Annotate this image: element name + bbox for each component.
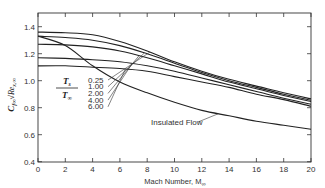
y-tick-label: 0.4 — [24, 158, 36, 167]
y-axis-title: Cf∞√Rex,∞ — [6, 78, 17, 112]
ts-ratio-fraction: Ts T∞ — [56, 76, 78, 101]
x-tick-label: 10 — [170, 165, 179, 174]
ts-ratio-legend: 0.251.002.004.006.00 — [88, 76, 104, 112]
x-tick-label: 16 — [252, 165, 261, 174]
x-tick-label: 4 — [90, 165, 95, 174]
x-tick-label: 6 — [118, 165, 123, 174]
svg-text:T∞: T∞ — [62, 90, 73, 101]
x-tick-label: 14 — [225, 165, 234, 174]
y-tick-label: 1.4 — [24, 23, 36, 32]
plot-area-border — [38, 13, 311, 162]
y-tick-label: 0.6 — [24, 131, 36, 140]
plot-frame — [38, 13, 311, 162]
x-tick-label: 2 — [63, 165, 68, 174]
x-tick-label: 0 — [36, 165, 41, 174]
y-tick-label: 0.8 — [24, 104, 36, 113]
svg-text:Ts: Ts — [63, 76, 72, 87]
x-tick-label: 20 — [307, 165, 316, 174]
y-tick-label: 1.0 — [24, 77, 36, 86]
x-tick-label: 18 — [279, 165, 288, 174]
curve-6-00 — [38, 66, 311, 107]
x-tick-label: 8 — [145, 165, 150, 174]
curve-2-00 — [38, 44, 311, 101]
ts-ratio-label: 6.00 — [88, 102, 104, 111]
x-tick-label: 12 — [197, 165, 206, 174]
chart: 02468101214161820 0.40.60.81.01.21.4 Mac… — [0, 0, 325, 188]
x-axis-title: Mach Number, M∞ — [144, 177, 205, 187]
curve-insulated-flow — [38, 36, 311, 129]
insulated-flow-label: Insulated Flow — [151, 118, 203, 127]
y-tick-label: 1.2 — [24, 50, 36, 59]
curves — [38, 32, 311, 129]
